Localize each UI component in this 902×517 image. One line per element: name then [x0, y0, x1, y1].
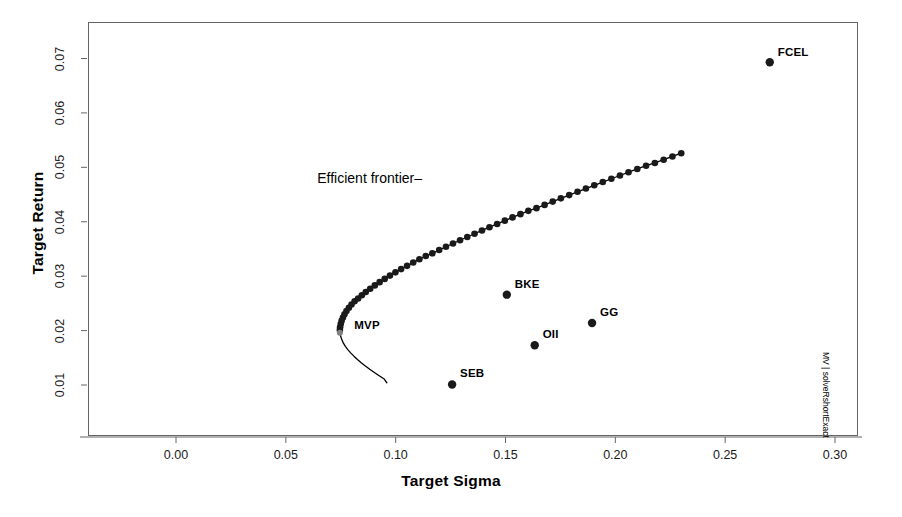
frontier-point	[517, 211, 524, 218]
frontier-point	[583, 185, 590, 192]
x-tick-label: 0.20	[603, 448, 627, 462]
frontier-point	[600, 179, 607, 186]
frontier-point	[392, 269, 399, 276]
frontier-point	[566, 192, 573, 199]
frontier-point	[533, 205, 540, 212]
frontier-point	[464, 234, 471, 241]
frontier-point	[457, 237, 464, 244]
frontier-point	[404, 263, 411, 270]
frontier-point	[443, 243, 450, 250]
y-tick-label: 0.04	[53, 210, 67, 234]
x-tick-label: 0.00	[164, 448, 188, 462]
frontier-point	[387, 272, 394, 279]
asset-point-gg	[588, 319, 596, 327]
frontier-point	[608, 175, 615, 182]
frontier-point	[471, 230, 478, 237]
y-tick-label: 0.02	[53, 318, 67, 342]
asset-label-gg: GG	[600, 306, 618, 318]
x-axis-title: Target Sigma	[0, 472, 902, 490]
frontier-point	[479, 227, 486, 234]
asset-label-fcel: FCEL	[778, 46, 809, 58]
frontier-point	[416, 256, 423, 263]
y-tick-label: 0.06	[53, 101, 67, 125]
chart-root: 0.000.050.100.150.200.250.300.010.020.03…	[0, 0, 902, 517]
y-axis-title: Target Return	[29, 113, 47, 333]
frontier-point	[634, 166, 641, 173]
efficient-frontier-annotation: Efficient frontier–	[0, 170, 422, 186]
asset-point-seb	[448, 380, 456, 388]
frontier-point	[450, 240, 457, 247]
frontier-point	[436, 247, 443, 254]
frontier-point	[486, 224, 493, 231]
y-tick-label: 0.07	[53, 46, 67, 70]
asset-label-bke: BKE	[515, 278, 540, 290]
side-caption: MV | solveRshortExact	[821, 352, 831, 472]
mvp-annotation: MVP	[354, 319, 380, 331]
inefficient-frontier-line	[340, 330, 387, 383]
x-tick-label: 0.15	[493, 448, 517, 462]
frontier-point	[669, 153, 676, 160]
x-tick-label: 0.05	[274, 448, 298, 462]
frontier-point	[643, 162, 650, 169]
asset-point-oii	[531, 341, 539, 349]
frontier-point	[398, 266, 405, 273]
frontier-point	[541, 202, 548, 209]
frontier-point	[509, 214, 516, 221]
asset-label-oii: OII	[543, 328, 559, 340]
asset-point-bke	[503, 290, 511, 298]
frontier-point	[652, 160, 659, 167]
frontier-point	[549, 198, 556, 205]
frontier-point	[660, 156, 667, 163]
asset-point-fcel	[766, 58, 774, 66]
frontier-point	[494, 221, 501, 228]
y-tick-label: 0.03	[53, 264, 67, 288]
frontier-point	[502, 217, 509, 224]
axis-ticks	[80, 59, 862, 444]
mvp-point	[337, 330, 343, 336]
frontier-point	[678, 150, 685, 157]
asset-label-seb: SEB	[460, 367, 484, 379]
x-tick-label: 0.10	[383, 448, 407, 462]
y-tick-label: 0.01	[53, 373, 67, 397]
frontier-point	[410, 259, 417, 266]
frontier-point	[574, 189, 581, 196]
x-tick-label: 0.25	[713, 448, 737, 462]
mvp-marker	[337, 330, 343, 336]
frontier-point	[558, 195, 565, 202]
frontier-point	[591, 182, 598, 189]
frontier-point	[525, 208, 532, 215]
frontier-point	[625, 169, 632, 176]
frontier-point	[429, 250, 436, 257]
plot-canvas	[0, 0, 902, 517]
frontier-point	[617, 172, 624, 179]
frontier-point	[422, 253, 429, 260]
